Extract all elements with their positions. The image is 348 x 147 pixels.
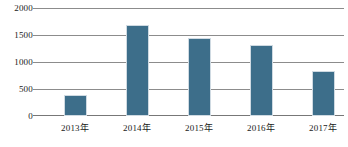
- x-axis-tick-label-2016: 2016年: [247, 124, 275, 133]
- x-axis-tick-label-2013: 2013年: [61, 124, 89, 133]
- bar-2013: [64, 95, 87, 116]
- y-axis-tick-label: 1500: [3, 31, 33, 40]
- bar-2015: [188, 38, 211, 116]
- gridline-2000: [33, 8, 344, 9]
- y-axis-tick-label: 2000: [3, 4, 33, 13]
- plot-area: [33, 8, 344, 116]
- bar-2017: [312, 71, 335, 116]
- y-axis-tick-label: 500: [3, 85, 33, 94]
- y-axis-tick-label: 0: [3, 112, 33, 121]
- x-axis-tick-label-2017: 2017年: [309, 124, 337, 133]
- y-axis-tick-label: 1000: [3, 58, 33, 67]
- gridline-1500: [33, 35, 344, 36]
- bar-2014: [126, 25, 149, 116]
- bar-2016: [250, 45, 273, 116]
- x-axis-tick-label-2015: 2015年: [185, 124, 213, 133]
- bar-chart: 2000 1500 1000 500 0 2013年 2014年 2015年 2…: [0, 0, 348, 147]
- x-axis-tick-label-2014: 2014年: [123, 124, 151, 133]
